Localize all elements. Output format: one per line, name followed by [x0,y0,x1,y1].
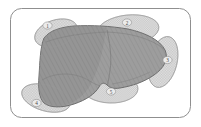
callout-label-4[interactable]: 4 [32,99,41,106]
callout-label-3[interactable]: 3 [163,56,172,63]
callout-label-1[interactable]: 1 [43,22,52,29]
figure-container: 1 2 3 4 5 [0,0,201,127]
callout-label-2[interactable]: 2 [122,19,131,26]
callout-label-5[interactable]: 5 [106,88,115,95]
label-circle-4 [32,99,41,106]
label-circle-2 [122,19,131,26]
label-circle-3 [163,56,172,63]
label-circle-5 [106,88,115,95]
liver-diagram-svg: 1 2 3 4 5 [0,0,201,127]
label-circle-1 [43,22,52,29]
